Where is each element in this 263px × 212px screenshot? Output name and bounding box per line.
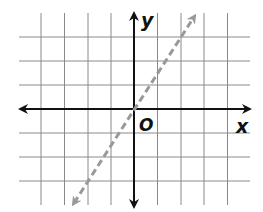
y-axis-label: y	[141, 9, 155, 31]
x-axis-label: x	[235, 115, 249, 137]
origin-label: O	[139, 115, 153, 135]
coordinate-graph: y x O	[0, 0, 263, 212]
